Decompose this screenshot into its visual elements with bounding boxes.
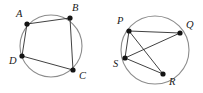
vertex-label-c: C	[79, 70, 87, 81]
chord-pr	[129, 31, 163, 74]
right-circle-outline	[121, 16, 189, 84]
vertex-point-c	[70, 67, 75, 72]
vertex-label-p: P	[116, 15, 124, 26]
geometry-figure-container: ABCDPQRS	[0, 0, 203, 93]
vertex-point-q	[177, 30, 182, 35]
chord-ps	[125, 31, 129, 58]
vertex-point-r	[160, 71, 165, 76]
circle-pqrs: PQRS	[113, 15, 194, 87]
vertex-point-b	[67, 15, 72, 20]
chord-sr	[125, 58, 163, 74]
vertex-point-s	[122, 55, 127, 60]
vertex-point-p	[126, 28, 131, 33]
vertex-point-d	[19, 53, 24, 58]
vertex-label-d: D	[8, 55, 17, 66]
geometry-diagram: ABCDPQRS	[0, 0, 203, 93]
chord-pq	[129, 31, 180, 33]
vertex-label-s: S	[113, 58, 119, 69]
vertex-label-a: A	[15, 8, 23, 19]
chord-ad	[22, 24, 27, 56]
circle-abcd: ABCD	[8, 2, 87, 81]
chord-bc	[70, 18, 73, 70]
vertex-point-a	[24, 21, 29, 26]
vertex-label-r: R	[168, 76, 176, 87]
vertex-label-q: Q	[186, 19, 194, 30]
vertex-label-b: B	[72, 2, 79, 13]
